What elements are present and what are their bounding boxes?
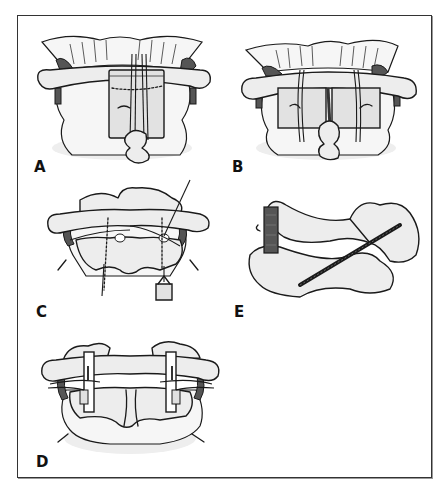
panel-e-illustration (240, 185, 425, 305)
panel-c (40, 180, 210, 300)
panel-b-illustration (238, 30, 418, 170)
panel-a-label: A (34, 160, 46, 175)
panel-c-illustration (40, 180, 210, 300)
panel-a-illustration (30, 30, 210, 170)
panel-a (30, 30, 210, 170)
panel-e (240, 185, 425, 305)
panel-b (238, 30, 418, 170)
panel-e-label: E (234, 305, 244, 320)
panel-c-label: C (36, 305, 47, 320)
panel-b-label: B (232, 160, 243, 175)
panel-d-label: D (36, 455, 48, 470)
panel-d (40, 330, 220, 460)
panel-d-illustration (40, 330, 220, 460)
